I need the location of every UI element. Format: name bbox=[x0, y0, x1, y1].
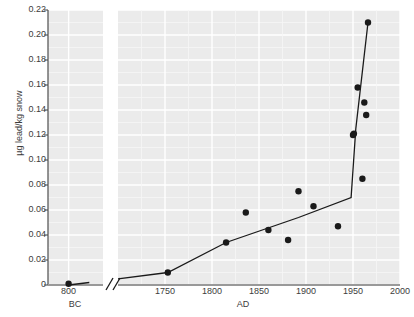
x-axis-title-bc: BC bbox=[60, 299, 90, 309]
y-tick-label: 0.18 bbox=[0, 55, 46, 64]
x-tick-label-ad: 1950 bbox=[333, 287, 373, 296]
plot-panel-ad bbox=[118, 10, 400, 285]
y-tick-label: 0.04 bbox=[0, 230, 46, 239]
x-axis-title-ad: AD bbox=[223, 299, 263, 309]
y-tick-label: 0.02 bbox=[0, 255, 46, 264]
chart-figure: 00.020.040.060.080.100.120.140.160.180.2… bbox=[0, 0, 414, 317]
x-tick-label-bc: 800 bbox=[49, 287, 89, 296]
x-tick-label-ad: 1750 bbox=[145, 287, 185, 296]
x-tick-label-ad: 2000 bbox=[380, 287, 414, 296]
y-tick-label: 0.22 bbox=[0, 5, 46, 14]
y-tick-label: 0 bbox=[0, 280, 46, 289]
plot-panel-bc bbox=[48, 10, 103, 285]
x-tick-label-ad: 1800 bbox=[192, 287, 232, 296]
y-tick-label: 0.20 bbox=[0, 30, 46, 39]
y-tick-label: 0.06 bbox=[0, 205, 46, 214]
y-axis-title: µg lead/kg snow bbox=[14, 68, 24, 178]
axis-break-mark bbox=[106, 278, 113, 290]
y-tick-label: 0.08 bbox=[0, 180, 46, 189]
x-tick-label-ad: 1900 bbox=[286, 287, 326, 296]
x-tick-label-ad: 1850 bbox=[239, 287, 279, 296]
